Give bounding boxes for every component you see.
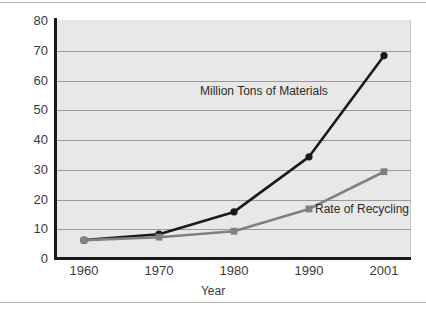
data-point-marker bbox=[156, 234, 163, 241]
data-point-marker bbox=[380, 52, 387, 59]
series-plot bbox=[0, 0, 426, 312]
data-point-marker bbox=[230, 208, 237, 215]
data-point-marker bbox=[381, 168, 388, 175]
data-point-marker bbox=[81, 237, 88, 244]
x-axis-title: Year bbox=[0, 284, 426, 298]
data-point-marker bbox=[306, 206, 313, 213]
chart-figure: 01020304050607080 19601970198019902001 M… bbox=[0, 0, 426, 312]
data-point-marker bbox=[305, 153, 312, 160]
series-label-materials: Million Tons of Materials bbox=[200, 84, 328, 98]
data-point-marker bbox=[231, 228, 238, 235]
series-label-recycling: Rate of Recycling bbox=[315, 202, 409, 216]
